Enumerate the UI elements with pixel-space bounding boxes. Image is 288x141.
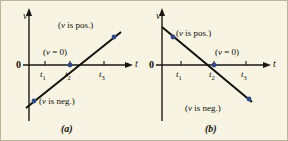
tick-label-t3-b: t3 [241,70,247,81]
tick-label-t3-a-sub: 3 [102,74,105,81]
annotation-v-negative-a-symbol: v [42,96,46,106]
annotation-v-negative-b: (v is neg.) [185,104,221,113]
annotation-v-positive-a: (v is pos.) [58,21,93,30]
origin-label-b: 0 [149,60,154,70]
panel-caption-a: (a) [61,123,73,134]
data-point-positive-b [171,35,176,40]
origin-label-a: 0 [16,60,21,70]
annotation-v-positive-b: (v is pos.) [176,29,211,38]
t-axis-label-a: t [135,59,138,69]
annotation-v-zero-b: (v = 0) [215,48,239,57]
tick-label-t3-a: t3 [99,70,105,81]
tick-label-t2-a: t2 [65,70,71,81]
annotation-v-zero-a: (v = 0) [43,48,67,57]
v-axis-label-a: v [23,11,27,21]
figure-container: v t 0 t1 t2 t3 (v is pos.) (v = 0) (v is… [0,0,288,141]
data-point-zero-b [212,63,217,68]
annotation-v-positive-a-symbol: v [61,20,65,30]
t-axis-label-b: t [273,59,276,69]
data-point-zero-a [68,63,73,68]
data-point-negative-a [32,99,37,104]
annotation-v-zero-a-symbol: v [46,47,50,57]
data-point-positive-a [112,35,117,40]
panel-b-graph [145,1,288,141]
tick-label-t2-b: t2 [209,70,215,81]
annotation-v-negative-b-symbol: v [188,103,192,113]
v-axis-label-b: v [156,11,160,21]
tick-label-t1-b-sub: 1 [179,74,182,81]
tick-label-t1-a-sub: 1 [43,74,46,81]
tick-label-t2-b-sub: 2 [212,74,215,81]
annotation-v-negative-a: (v is neg.) [39,97,75,106]
panel-a: v t 0 t1 t2 t3 (v is pos.) (v = 0) (v is… [1,1,145,141]
tick-label-t1-a: t1 [40,70,46,81]
tick-label-t2-a-sub: 2 [68,74,71,81]
tick-label-t3-b-sub: 3 [244,74,247,81]
data-point-negative-b [247,97,252,102]
panel-b: v t 0 t1 t2 t3 (v is pos.) (v = 0) (v is… [145,1,288,141]
annotation-v-positive-b-symbol: v [179,28,183,38]
tick-label-t1-b: t1 [176,70,182,81]
panel-caption-b: (b) [205,123,217,134]
annotation-v-zero-b-symbol: v [218,47,222,57]
